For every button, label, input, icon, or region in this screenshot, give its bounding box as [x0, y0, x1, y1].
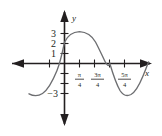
y-tick-label-minus-3: −3	[47, 88, 58, 99]
sine-curve-figure: 3 2 1 −3 π 4 3π 4 5π 4 y x	[0, 0, 162, 136]
y-axis-label: y	[71, 13, 76, 23]
x-axis-label: x	[144, 68, 149, 78]
x-tick-label-3pi-over-4-numerator: 3π	[94, 71, 101, 78]
graph-canvas: 3 2 1 −3 π 4 3π 4 5π 4 y x	[0, 0, 162, 136]
y-tick-label-1: 1	[51, 48, 56, 59]
figure-background	[0, 0, 162, 136]
x-tick-label-5pi-over-4-numerator: 5π	[121, 71, 128, 78]
